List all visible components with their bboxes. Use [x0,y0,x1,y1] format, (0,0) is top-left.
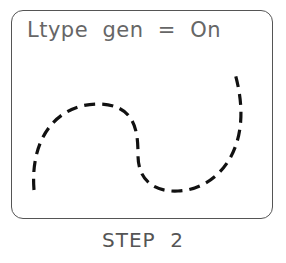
step-caption: STEP 2 [0,228,286,252]
dashed-polyline-curve [0,0,286,263]
dashed-curve [34,70,241,191]
